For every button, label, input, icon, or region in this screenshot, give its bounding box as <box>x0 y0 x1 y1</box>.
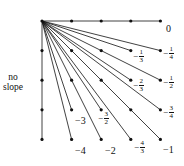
no-slope-label: no slope <box>3 72 23 92</box>
grid-dot <box>159 108 162 111</box>
grid-dot <box>40 108 43 111</box>
grid-dot <box>159 79 162 82</box>
grid-dot <box>40 138 43 141</box>
slope-line <box>42 21 131 51</box>
slope-label-neg-1-3: − 13 <box>133 49 144 64</box>
slope-label-neg-1-2: − 12 <box>163 75 174 90</box>
grid-dot <box>70 108 73 111</box>
slope-line <box>42 21 101 110</box>
grid-dot <box>70 138 73 141</box>
grid-dot <box>40 79 43 82</box>
slope-label-neg-4: −4 <box>75 146 86 156</box>
grid-dot <box>40 19 43 22</box>
grid-dot <box>129 19 132 22</box>
grid-dot <box>159 49 162 52</box>
grid-dot <box>159 138 162 141</box>
slope-label-0: 0 <box>166 24 171 34</box>
slope-label-neg-3-2: − 32 <box>98 111 109 126</box>
slope-diagram <box>0 0 184 166</box>
grid-dot <box>159 19 162 22</box>
slope-line <box>42 21 131 80</box>
grid-dot <box>70 19 73 22</box>
grid-dot <box>100 49 103 52</box>
slope-line <box>42 21 72 110</box>
slope-line <box>42 21 160 110</box>
grid-dot <box>129 49 132 52</box>
slope-label-neg-3: −3 <box>75 116 86 126</box>
grid-dot <box>100 79 103 82</box>
slope-line <box>42 21 72 139</box>
grid-dot <box>129 108 132 111</box>
grid-dot <box>129 79 132 82</box>
grid-dot <box>70 49 73 52</box>
grid-dot <box>70 79 73 82</box>
grid-dot <box>100 19 103 22</box>
grid-dot <box>40 49 43 52</box>
grid-dot <box>129 138 132 141</box>
grid-dot <box>100 138 103 141</box>
slope-line <box>42 21 131 139</box>
slope-label-neg-2: −2 <box>105 146 116 156</box>
slope-label-neg-1: −1 <box>163 145 174 155</box>
slope-label-neg-2-3: − 23 <box>133 78 144 93</box>
slope-label-neg-1-4: − 14 <box>163 46 174 61</box>
slope-label-neg-3-4: − 34 <box>163 105 174 120</box>
slope-line <box>42 21 160 51</box>
slope-label-neg-4-3: − 43 <box>134 140 145 155</box>
